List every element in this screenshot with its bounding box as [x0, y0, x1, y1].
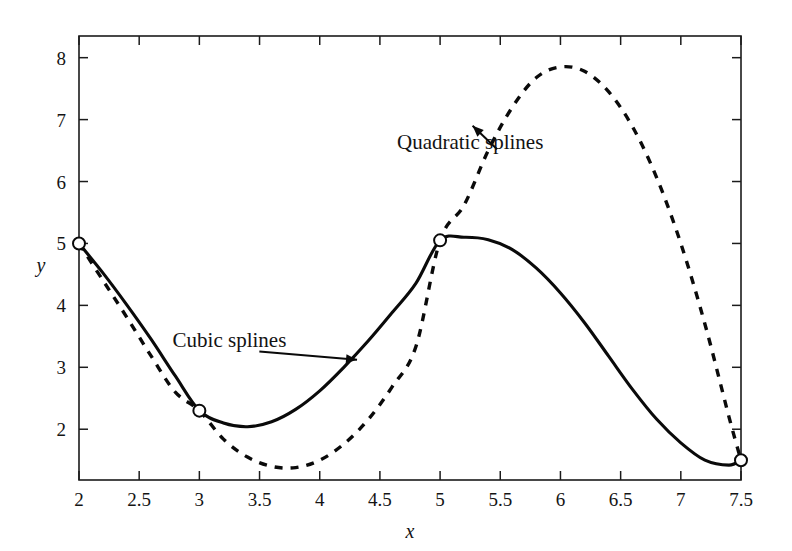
x-tick-label: 7: [676, 489, 686, 510]
x-tick-label: 2: [74, 489, 84, 510]
y-axis-ticks-right: [732, 58, 741, 430]
y-tick-label: 3: [57, 357, 67, 378]
y-tick-label: 6: [57, 172, 67, 193]
y-tick-label: 8: [57, 48, 67, 69]
x-tick-label: 6: [556, 489, 566, 510]
x-tick-label: 7.5: [729, 489, 753, 510]
x-tick-label: 3.5: [248, 489, 272, 510]
x-tick-label: 2.5: [127, 489, 151, 510]
annotation-leader-line: [259, 351, 357, 359]
y-tick-label: 5: [57, 233, 67, 254]
y-tick-label: 4: [57, 295, 67, 316]
y-tick-label: 2: [57, 419, 67, 440]
data-point-marker: [434, 234, 446, 246]
y-axis-tick-labels: 8765432: [57, 48, 67, 441]
x-tick-label: 4: [315, 489, 325, 510]
y-tick-label: 7: [57, 110, 67, 131]
x-tick-label: 5: [435, 489, 445, 510]
y-axis-title: y: [35, 254, 46, 277]
data-point-marker: [193, 405, 205, 417]
x-axis-tick-labels: 22.533.544.555.566.577.5: [74, 489, 753, 510]
x-tick-label: 6.5: [609, 489, 633, 510]
annotation-label: Cubic splines: [173, 328, 287, 352]
annotation-label: Quadratic splines: [397, 130, 543, 154]
chart-annotations: Cubic splinesQuadratic splines: [173, 126, 544, 364]
x-axis-ticks-bottom: [79, 471, 741, 480]
x-tick-label: 5.5: [488, 489, 512, 510]
quadratic-splines-curve: [79, 67, 741, 469]
x-tick-label: 4.5: [368, 489, 392, 510]
x-axis-ticks-top: [79, 36, 741, 45]
chart-canvas: 22.533.544.555.566.577.5 8765432 x y Cub…: [0, 0, 792, 551]
spline-comparison-figure: 22.533.544.555.566.577.5 8765432 x y Cub…: [0, 0, 792, 551]
x-tick-label: 3: [195, 489, 205, 510]
data-point-marker: [735, 454, 747, 466]
x-axis-title: x: [405, 520, 415, 542]
data-point-marker: [73, 237, 85, 249]
plot-frame: [79, 36, 741, 480]
